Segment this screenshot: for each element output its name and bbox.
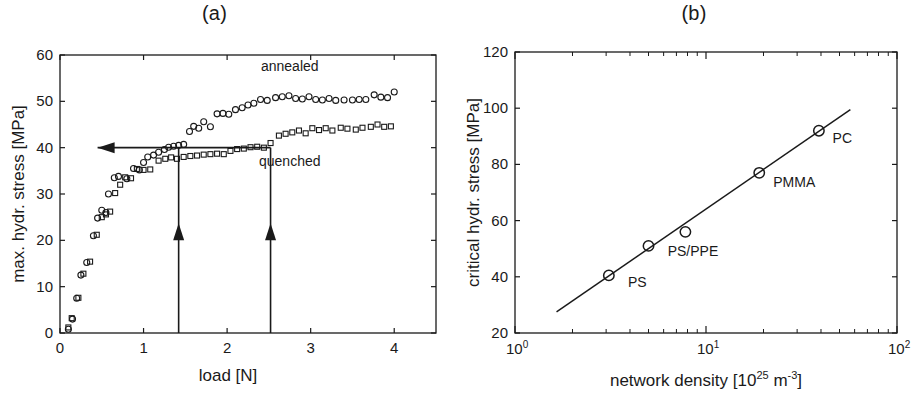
data-point-square — [241, 146, 246, 151]
data-point-circle — [313, 96, 319, 102]
y-tick-label-b: 20 — [491, 324, 508, 341]
plot-frame-b — [515, 52, 897, 333]
panel-a-plot: 010203040506001234load [N]max. hydr. str… — [0, 0, 457, 396]
power-law-fit — [557, 110, 851, 312]
data-point-square — [317, 128, 322, 133]
data-point-unlabeled — [680, 227, 690, 237]
data-point-circle — [145, 154, 151, 160]
data-point-circle — [293, 96, 299, 102]
data-point-circle — [299, 96, 305, 102]
data-point-square — [290, 130, 295, 135]
data-point-circle — [207, 124, 213, 130]
x-tick-label-a: 1 — [139, 339, 147, 356]
data-point-circle — [356, 96, 362, 102]
series-quenched — [66, 122, 394, 330]
data-point-square — [360, 125, 365, 130]
y-tick-label-a: 30 — [36, 185, 53, 202]
data-point-square — [215, 151, 220, 156]
data-point-square — [388, 124, 393, 129]
x-tick-label-a: 3 — [306, 339, 314, 356]
data-point-square — [338, 125, 343, 130]
y-tick-label-b: 120 — [483, 43, 508, 60]
y-tick-label-a: 50 — [36, 92, 53, 109]
y-tick-label-b: 40 — [491, 268, 508, 285]
data-point-circle — [341, 97, 347, 103]
data-point-square — [345, 126, 350, 131]
data-point-square — [375, 122, 380, 127]
data-point-square — [296, 128, 301, 133]
data-point-circle — [245, 102, 251, 108]
quenched-load-arrow-head — [265, 223, 276, 240]
point-label-PS-PPE: PS/PPE — [668, 243, 719, 259]
data-point-circle — [232, 107, 238, 113]
data-point-square — [382, 124, 387, 129]
y-tick-label-b: 100 — [483, 99, 508, 116]
data-point-square — [148, 167, 153, 172]
data-point-circle — [273, 95, 279, 101]
data-point-circle — [363, 96, 369, 102]
data-point-circle — [105, 191, 111, 197]
data-point-circle — [220, 110, 226, 116]
x-tick-label-a: 2 — [223, 339, 231, 356]
series-label-annealed: annealed — [261, 58, 319, 74]
data-point-square — [303, 131, 308, 136]
data-point-circle — [326, 96, 332, 102]
panel-a: (a) 010203040506001234load [N]max. hydr.… — [0, 0, 457, 396]
y-axis-title-a: max. hydr. stress [MPa] — [9, 105, 28, 283]
data-point-circle — [226, 111, 232, 117]
figure-root: (a) 010203040506001234load [N]max. hydr.… — [0, 0, 915, 396]
data-point-circle — [378, 94, 384, 100]
data-point-square — [113, 191, 118, 196]
critical-stress-level-arrow-head — [98, 142, 115, 153]
y-tick-label-a: 60 — [36, 46, 53, 63]
series-annealed — [65, 89, 397, 332]
data-point-circle — [187, 128, 193, 134]
data-point-circle — [279, 94, 285, 100]
series-label-quenched: quenched — [259, 153, 321, 169]
data-point-square — [310, 126, 315, 131]
x-axis-title-b: network density [1025 m-3] — [610, 369, 802, 390]
data-point-circle — [201, 119, 207, 125]
y-tick-label-a: 10 — [36, 278, 53, 295]
x-tick-label-a: 4 — [390, 339, 398, 356]
y-tick-label-a: 40 — [36, 139, 53, 156]
x-tick-label-b: 102 — [888, 339, 911, 357]
data-point-circle — [141, 159, 147, 165]
point-label-PS: PS — [628, 274, 647, 290]
point-label-PC: PC — [833, 130, 852, 146]
data-point-square — [118, 182, 123, 187]
data-point-circle — [319, 97, 325, 103]
data-point-circle — [391, 89, 397, 95]
data-point-circle — [333, 97, 339, 103]
data-point-circle — [258, 96, 264, 102]
y-axis-title-b: critical hydr. stress [MPa] — [464, 98, 483, 287]
annealed-load-arrow-head — [173, 223, 184, 240]
y-tick-label-b: 80 — [491, 155, 508, 172]
x-axis-title-a: load [N] — [199, 366, 258, 385]
y-tick-label-a: 20 — [36, 231, 53, 248]
plot-frame-a — [60, 55, 436, 333]
data-point-square — [195, 153, 200, 158]
data-point-circle — [214, 111, 220, 117]
data-point-circle — [306, 94, 312, 100]
data-point-square — [208, 152, 213, 157]
x-tick-label-b: 101 — [697, 339, 720, 357]
panel-b: (b) 20406080100120100101102network densi… — [457, 0, 915, 396]
data-point-circle — [349, 97, 355, 103]
data-point-square — [283, 131, 288, 136]
data-point-square — [156, 158, 161, 163]
y-tick-label-b: 60 — [491, 212, 508, 229]
data-point-square — [169, 155, 174, 160]
point-label-PMMA: PMMA — [773, 174, 816, 190]
data-point-circle — [239, 105, 245, 111]
data-point-square — [268, 141, 273, 146]
data-point-square — [188, 154, 193, 159]
data-point-square — [353, 127, 358, 132]
data-point-square — [323, 126, 328, 131]
y-tick-label-a: 0 — [45, 324, 53, 341]
panel-b-plot: 20406080100120100101102network density [… — [457, 0, 915, 396]
data-point-square — [330, 128, 335, 133]
data-point-circle — [371, 92, 377, 98]
data-point-circle — [286, 93, 292, 99]
data-point-square — [181, 154, 186, 159]
